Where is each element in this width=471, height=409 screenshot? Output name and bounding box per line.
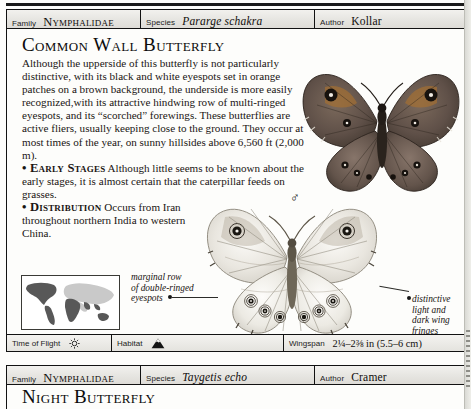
annotation-wing-fringes: distinctive light and dark wing fringes <box>412 294 451 334</box>
author-label: Author <box>320 12 344 27</box>
author-value: Kollar <box>351 10 382 27</box>
early-stages-heading: • Early Stages <box>22 161 105 175</box>
annotation-line: eyespots <box>131 293 194 304</box>
time-of-flight-cell: Time of Flight <box>7 335 111 351</box>
page-edge-ticks <box>466 330 470 409</box>
family-value-secondary: Nymphalidae <box>43 366 114 384</box>
page-title: Common Wall Butterfly <box>22 34 225 56</box>
taxonomy-bar-primary: Family Nymphalidae Species Pararge schak… <box>6 9 465 29</box>
annotation-line: dark wing <box>412 315 451 326</box>
annotation-line: fringes <box>412 326 451 334</box>
author-cell-secondary: Author Cramer <box>314 366 464 384</box>
species-label: Species <box>146 12 175 27</box>
species-value-secondary: Taygetis echo <box>182 366 247 383</box>
family-value: Nymphalidae <box>43 10 114 28</box>
species-label-secondary: Species <box>146 368 175 383</box>
distribution-map <box>21 275 120 330</box>
mountain-icon <box>151 338 165 349</box>
leader-line-right <box>379 286 409 292</box>
habitat-label: Habitat <box>117 339 142 348</box>
annotation-line: marginal row <box>131 272 194 283</box>
wingspan-label: Wingspan <box>289 339 325 348</box>
distribution-heading: • Distribution <box>22 200 101 214</box>
field-guide-page: Family Nymphalidae Species Pararge schak… <box>0 0 471 409</box>
leader-line-left <box>172 297 218 298</box>
wingspan-cell: Wingspan 2¼–2⅜ in (5.5–6 cm) <box>283 335 464 351</box>
annotation-line: light and <box>412 305 451 316</box>
author-value-secondary: Cramer <box>351 366 387 383</box>
attribute-bar: Time of Flight Habitat <box>6 334 465 352</box>
description-paragraph: Although the upperside of this butterfly… <box>22 57 304 162</box>
author-label-secondary: Author <box>320 368 344 383</box>
habitat-cell: Habitat <box>111 335 283 351</box>
male-symbol: ♂ <box>290 190 300 206</box>
species-value: Pararge schakra <box>182 10 262 27</box>
species-content-panel: Common Wall Butterfly Although the upper… <box>6 29 465 334</box>
family-label-secondary: Family <box>12 369 36 384</box>
author-cell: Author Kollar <box>314 10 464 28</box>
species-cell-secondary: Species Taygetis echo <box>140 366 314 384</box>
secondary-content-panel: Night Butterfly <box>6 385 465 409</box>
sun-icon <box>69 338 80 349</box>
wingspan-value: 2¼–2⅜ in (5.5–6 cm) <box>333 338 422 349</box>
annotation-line: of double-ringed <box>131 283 194 294</box>
family-label: Family <box>12 13 36 28</box>
time-of-flight-label: Time of Flight <box>12 339 60 348</box>
page-top-rule <box>6 3 465 6</box>
family-cell-secondary: Family Nymphalidae <box>7 366 140 384</box>
distribution-section: • Distribution Occurs from Iran througho… <box>22 201 197 240</box>
leader-dot-right <box>407 296 411 300</box>
annotation-marginal-row: marginal row of double-ringed eyespots <box>131 272 194 304</box>
annotation-line: distinctive <box>412 294 451 305</box>
butterfly-upperside-illustration <box>295 65 465 201</box>
description-body: Although the upperside of this butterfly… <box>22 57 304 240</box>
early-stages-section: • Early Stages Although little seems to … <box>22 162 304 201</box>
species-cell: Species Pararge schakra <box>140 10 314 28</box>
taxonomy-bar-secondary: Family Nymphalidae Species Taygetis echo… <box>6 365 465 385</box>
page-title-secondary: Night Butterfly <box>22 386 155 408</box>
family-cell: Family Nymphalidae <box>7 10 140 28</box>
